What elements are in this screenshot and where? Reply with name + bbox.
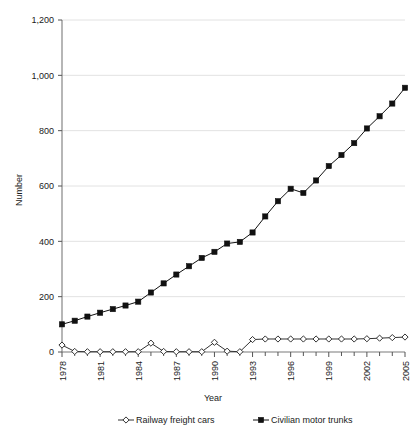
data-point-square xyxy=(225,241,230,246)
chart-legend: Railway freight carsCivilian motor trunk… xyxy=(118,415,353,425)
data-point-diamond xyxy=(173,349,179,355)
data-point-square xyxy=(59,322,64,327)
x-tick-label: 1990 xyxy=(210,361,220,381)
legend-item-railway-freight-cars[interactable]: Railway freight cars xyxy=(118,415,215,425)
data-point-diamond xyxy=(72,348,78,354)
data-point-diamond xyxy=(402,334,408,340)
x-tick-label: 2005 xyxy=(401,361,411,381)
chart-container: 02004006008001,0001,200 1978198119841987… xyxy=(0,0,420,439)
y-tick-label: 600 xyxy=(39,181,54,191)
x-tick-label: 2002 xyxy=(362,361,372,381)
y-tick-label: 1,000 xyxy=(31,71,54,81)
data-point-diamond xyxy=(262,336,268,342)
data-point-square xyxy=(98,310,103,315)
data-point-square xyxy=(313,178,318,183)
data-point-square xyxy=(136,299,141,304)
data-point-square xyxy=(402,85,407,90)
gridlines xyxy=(62,20,405,297)
legend-label: Civilian motor trunks xyxy=(271,415,353,425)
data-point-diamond xyxy=(376,335,382,341)
x-tick-label: 1978 xyxy=(58,361,68,381)
data-point-diamond xyxy=(135,349,141,355)
data-point-square xyxy=(301,190,306,195)
data-point-diamond xyxy=(313,336,319,342)
legend-label: Railway freight cars xyxy=(136,415,215,425)
data-point-diamond xyxy=(389,335,395,341)
data-point-square xyxy=(377,114,382,119)
data-point-square xyxy=(186,264,191,269)
data-point-diamond xyxy=(186,349,192,355)
x-tick-label: 1996 xyxy=(286,361,296,381)
data-point-diamond xyxy=(59,342,65,348)
legend-item-civilian-motor-trunks[interactable]: Civilian motor trunks xyxy=(253,415,353,425)
data-point-square xyxy=(275,199,280,204)
data-point-diamond xyxy=(300,336,306,342)
data-point-square xyxy=(263,214,268,219)
data-point-diamond xyxy=(288,336,294,342)
data-point-diamond xyxy=(110,349,116,355)
data-point-diamond xyxy=(351,336,357,342)
x-tick-label: 1993 xyxy=(248,361,258,381)
data-point-square xyxy=(85,314,90,319)
data-point-square xyxy=(72,318,77,323)
y-axis-title: Number xyxy=(14,174,24,206)
y-tick-label: 1,200 xyxy=(31,15,54,25)
data-point-square xyxy=(390,101,395,106)
y-tick-label: 200 xyxy=(39,292,54,302)
data-point-diamond xyxy=(122,349,128,355)
data-point-square xyxy=(352,141,357,146)
data-point-square xyxy=(161,281,166,286)
data-point-square xyxy=(110,307,115,312)
data-point-square xyxy=(250,230,255,235)
y-tick-label: 800 xyxy=(39,126,54,136)
data-point-square xyxy=(148,290,153,295)
data-point-diamond xyxy=(326,336,332,342)
data-point-diamond xyxy=(123,417,129,423)
data-point-square xyxy=(212,249,217,254)
x-axis: 1978198119841987199019931996199920022005 xyxy=(58,352,411,381)
data-point-square xyxy=(199,255,204,260)
y-tick-label: 0 xyxy=(49,347,54,357)
data-point-diamond xyxy=(84,349,90,355)
data-point-square xyxy=(258,417,263,422)
data-point-diamond xyxy=(161,348,167,354)
data-point-square xyxy=(364,126,369,131)
series-civilian-motor-trunks xyxy=(59,85,407,327)
series-line xyxy=(62,88,405,325)
data-point-square xyxy=(326,163,331,168)
data-point-diamond xyxy=(224,348,230,354)
data-point-diamond xyxy=(97,349,103,355)
data-point-diamond xyxy=(364,336,370,342)
data-point-square xyxy=(288,186,293,191)
x-tick-label: 1999 xyxy=(324,361,334,381)
data-point-diamond xyxy=(148,340,154,346)
line-chart: 02004006008001,0001,200 1978198119841987… xyxy=(0,0,420,439)
data-point-square xyxy=(339,152,344,157)
data-point-diamond xyxy=(338,336,344,342)
x-axis-title: Year xyxy=(204,393,222,403)
x-tick-label: 1981 xyxy=(96,361,106,381)
data-point-square xyxy=(174,272,179,277)
data-point-square xyxy=(123,303,128,308)
data-point-diamond xyxy=(275,336,281,342)
y-tick-label: 400 xyxy=(39,237,54,247)
x-tick-label: 1987 xyxy=(172,361,182,381)
data-point-square xyxy=(237,239,242,244)
data-series xyxy=(59,85,408,355)
y-axis: 02004006008001,0001,200 xyxy=(31,15,62,357)
x-tick-label: 1984 xyxy=(134,361,144,381)
